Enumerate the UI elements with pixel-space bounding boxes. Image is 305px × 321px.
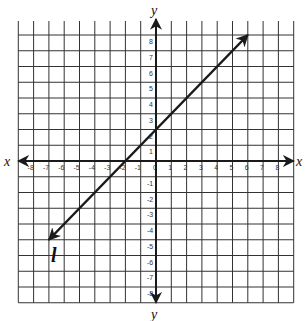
y-tick-label: 5 (149, 85, 153, 92)
x-tick-label: -6 (58, 164, 64, 171)
y-tick-label: -2 (147, 196, 153, 203)
x-tick-label: -1 (135, 164, 141, 171)
graph-line (49, 35, 248, 240)
x-tick-label: 3 (199, 164, 203, 171)
x-tick-label: 5 (230, 164, 234, 171)
x-tick-label: 4 (214, 164, 218, 171)
y-tick-label: 6 (149, 70, 153, 77)
y-tick-label: -5 (147, 243, 153, 250)
coordinate-plane: -8-7-6-5-4-3-2-101234567887654321-1-2-3-… (0, 0, 305, 321)
y-axis-label-bottom: y (149, 307, 158, 321)
x-tick-label: -8 (28, 164, 34, 171)
x-tick-label: 2 (184, 164, 188, 171)
x-tick-label: 7 (260, 164, 264, 171)
y-axis-label-top: y (149, 3, 158, 18)
axes (18, 19, 293, 303)
x-axis-label-right: x (295, 154, 303, 169)
y-tick-label: -8 (147, 290, 153, 297)
x-axis-label-left: x (3, 154, 11, 169)
tick-labels: -8-7-6-5-4-3-2-101234567887654321-1-2-3-… (28, 38, 280, 297)
x-tick-label: -7 (43, 164, 49, 171)
line-l (49, 35, 248, 240)
y-tick-label: 8 (149, 38, 153, 45)
y-tick-label: -1 (147, 180, 153, 187)
x-tick-label: 6 (245, 164, 249, 171)
line-label: l (51, 244, 57, 266)
y-tick-label: 7 (149, 54, 153, 61)
y-tick-label: -6 (147, 259, 153, 266)
x-tick-label: 1 (168, 164, 172, 171)
y-tick-label: 4 (149, 101, 153, 108)
x-tick-label: 8 (275, 164, 279, 171)
y-tick-label: -7 (147, 274, 153, 281)
y-tick-label: -3 (147, 211, 153, 218)
y-tick-label: -4 (147, 227, 153, 234)
y-tick-label: 3 (149, 117, 153, 124)
x-tick-label: -4 (89, 164, 95, 171)
x-tick-label: -5 (74, 164, 80, 171)
y-tick-label: 1 (149, 148, 153, 155)
x-tick-label: -3 (104, 164, 110, 171)
